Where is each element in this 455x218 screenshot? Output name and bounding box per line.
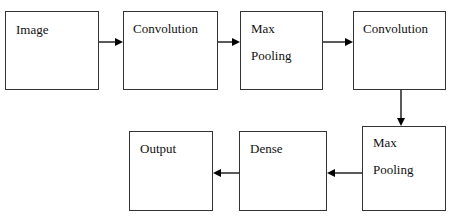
arrow-image-to-conv1-icon (99, 38, 123, 46)
arrow-conv2-to-pool2-icon (397, 90, 405, 126)
arrow-conv1-to-pool1-icon (218, 38, 240, 46)
arrow-dense-to-output-icon (213, 169, 239, 177)
edges-layer (0, 0, 455, 218)
arrow-pool2-to-dense-icon (327, 169, 362, 177)
arrow-pool1-to-conv2-icon (323, 38, 353, 46)
